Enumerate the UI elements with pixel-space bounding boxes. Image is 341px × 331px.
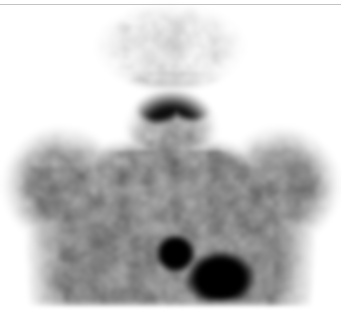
scintigram-image [0, 0, 341, 331]
scintigraphy-viewer [0, 0, 341, 331]
